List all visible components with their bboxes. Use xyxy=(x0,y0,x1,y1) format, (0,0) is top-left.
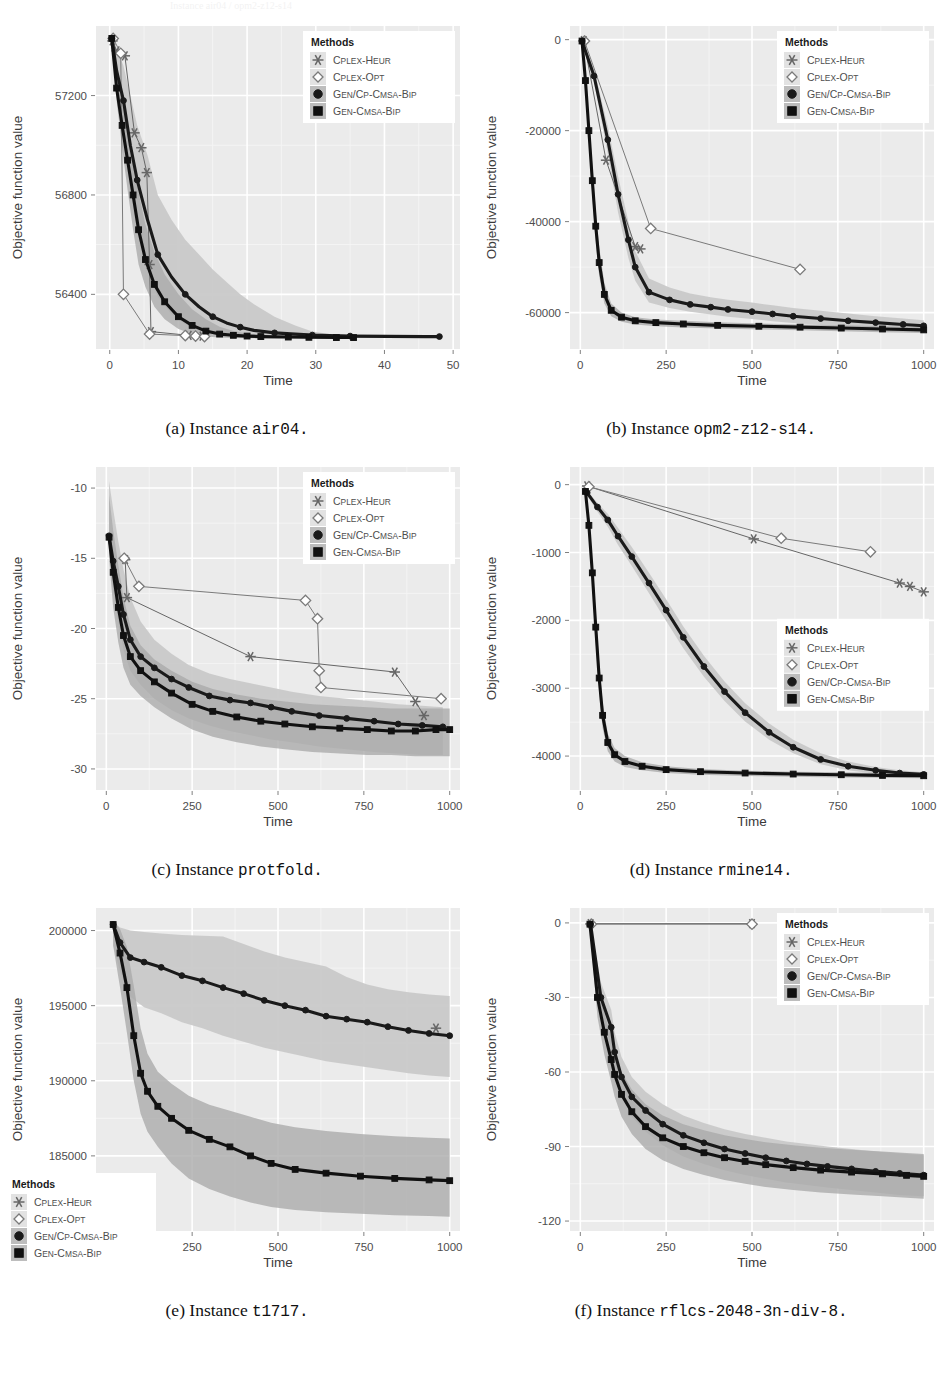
svg-text:Objective function value: Objective function value xyxy=(10,557,25,700)
svg-text:250: 250 xyxy=(657,359,676,371)
figure-row-3: 2505007501000185000190000195000200000Tim… xyxy=(0,882,948,1323)
svg-text:GEN-CMSA-BIP: GEN-CMSA-BIP xyxy=(333,105,401,117)
svg-text:-20000: -20000 xyxy=(525,125,561,137)
subfigure-a: 01020304050564005680057200TimeObjective … xyxy=(0,0,474,441)
svg-text:Methods: Methods xyxy=(12,1178,55,1190)
svg-text:Methods: Methods xyxy=(785,918,828,930)
svg-text:GEN-CMSA-BIP: GEN-CMSA-BIP xyxy=(807,105,875,117)
svg-text:CPLEX-HEUR: CPLEX-HEUR xyxy=(807,54,865,66)
caption-d: (d) Instance rmine14. xyxy=(474,856,948,882)
svg-text:0: 0 xyxy=(577,1241,583,1253)
svg-text:-10: -10 xyxy=(70,482,87,494)
svg-text:-25: -25 xyxy=(70,693,87,705)
caption-d-prefix: (d) Instance xyxy=(630,859,713,879)
svg-text:CPLEX-OPT: CPLEX-OPT xyxy=(333,71,384,83)
svg-text:Time: Time xyxy=(737,373,767,388)
svg-text:GEN-CMSA-BIP: GEN-CMSA-BIP xyxy=(333,546,401,558)
plot-d: 025050075010000-1000-2000-3000-4000TimeO… xyxy=(474,441,948,856)
svg-text:20: 20 xyxy=(241,359,254,371)
svg-text:GEN/CP-CMSA-BIP: GEN/CP-CMSA-BIP xyxy=(333,88,417,100)
svg-text:500: 500 xyxy=(742,359,761,371)
svg-text:30: 30 xyxy=(309,359,322,371)
svg-text:250: 250 xyxy=(657,1241,676,1253)
svg-text:Methods: Methods xyxy=(311,36,354,48)
svg-text:Objective function value: Objective function value xyxy=(484,998,499,1141)
caption-c: (c) Instance protfold. xyxy=(0,856,474,882)
svg-text:Time: Time xyxy=(263,1255,293,1270)
caption-e-prefix: (e) Instance xyxy=(166,1300,248,1320)
figure-row-1: 01020304050564005680057200TimeObjective … xyxy=(0,0,948,441)
caption-e-instance: t1717. xyxy=(252,1303,308,1321)
svg-text:-4000: -4000 xyxy=(532,750,561,762)
caption-f-instance: rflcs-2048-3n-div-8. xyxy=(659,1303,847,1321)
caption-a-prefix: (a) Instance xyxy=(166,418,248,438)
svg-text:250: 250 xyxy=(657,800,676,812)
svg-text:Methods: Methods xyxy=(785,36,828,48)
caption-f: (f) Instance rflcs-2048-3n-div-8. xyxy=(474,1297,948,1323)
svg-text:-15: -15 xyxy=(70,552,87,564)
svg-text:0: 0 xyxy=(103,800,109,812)
svg-text:1000: 1000 xyxy=(911,1241,937,1253)
svg-text:GEN-CMSA-BIP: GEN-CMSA-BIP xyxy=(807,693,875,705)
svg-text:CPLEX-HEUR: CPLEX-HEUR xyxy=(333,495,391,507)
svg-text:0: 0 xyxy=(555,479,561,491)
svg-text:190000: 190000 xyxy=(49,1075,87,1087)
svg-text:0: 0 xyxy=(577,800,583,812)
figure-multi-panel-convergence-plots: Instance air04 / opm2-z12-s14 0102030405… xyxy=(0,0,948,1389)
svg-text:185000: 185000 xyxy=(49,1150,87,1162)
svg-text:-40000: -40000 xyxy=(525,216,561,228)
svg-text:0: 0 xyxy=(107,359,113,371)
svg-text:CPLEX-HEUR: CPLEX-HEUR xyxy=(333,54,391,66)
plot-f: 025050075010000-30-60-90-120TimeObjectiv… xyxy=(474,882,948,1297)
svg-text:CPLEX-OPT: CPLEX-OPT xyxy=(333,512,384,524)
svg-text:Objective function value: Objective function value xyxy=(10,116,25,259)
caption-a-instance: air04. xyxy=(252,421,308,439)
svg-text:-60: -60 xyxy=(544,1066,561,1078)
plot-a: 01020304050564005680057200TimeObjective … xyxy=(0,0,474,415)
svg-text:GEN-CMSA-BIP: GEN-CMSA-BIP xyxy=(807,987,875,999)
caption-c-instance: protfold. xyxy=(238,862,323,880)
svg-text:Methods: Methods xyxy=(311,477,354,489)
subfigure-e: 2505007501000185000190000195000200000Tim… xyxy=(0,882,474,1323)
plot-b: 025050075010000-20000-40000-60000TimeObj… xyxy=(474,0,948,415)
svg-text:GEN/CP-CMSA-BIP: GEN/CP-CMSA-BIP xyxy=(34,1230,118,1242)
svg-text:750: 750 xyxy=(828,800,847,812)
svg-text:57200: 57200 xyxy=(55,90,87,102)
svg-text:Time: Time xyxy=(737,1255,767,1270)
caption-f-prefix: (f) Instance xyxy=(575,1300,655,1320)
svg-text:-120: -120 xyxy=(538,1215,561,1227)
svg-text:CPLEX-OPT: CPLEX-OPT xyxy=(807,659,858,671)
svg-text:-3000: -3000 xyxy=(532,682,561,694)
svg-text:1000: 1000 xyxy=(437,800,463,812)
svg-text:50: 50 xyxy=(447,359,460,371)
svg-text:250: 250 xyxy=(183,1241,202,1253)
svg-text:-20: -20 xyxy=(70,623,87,635)
svg-text:500: 500 xyxy=(268,1241,287,1253)
subfigure-d: 025050075010000-1000-2000-3000-4000TimeO… xyxy=(474,441,948,882)
svg-text:CPLEX-OPT: CPLEX-OPT xyxy=(34,1213,85,1225)
svg-text:750: 750 xyxy=(828,359,847,371)
caption-b: (b) Instance opm2-z12-s14. xyxy=(474,415,948,441)
svg-text:Time: Time xyxy=(263,814,293,829)
plot-e: 2505007501000185000190000195000200000Tim… xyxy=(0,882,474,1297)
subfigure-c: 02505007501000-10-15-20-25-30TimeObjecti… xyxy=(0,441,474,882)
svg-text:-60000: -60000 xyxy=(525,307,561,319)
svg-text:Objective function value: Objective function value xyxy=(10,998,25,1141)
svg-text:Objective function value: Objective function value xyxy=(484,557,499,700)
caption-e: (e) Instance t1717. xyxy=(0,1297,474,1323)
svg-text:Time: Time xyxy=(737,814,767,829)
svg-text:750: 750 xyxy=(354,800,373,812)
svg-text:500: 500 xyxy=(742,1241,761,1253)
caption-b-instance: opm2-z12-s14. xyxy=(694,421,816,439)
svg-text:56800: 56800 xyxy=(55,189,87,201)
svg-text:CPLEX-OPT: CPLEX-OPT xyxy=(807,953,858,965)
svg-text:750: 750 xyxy=(354,1241,373,1253)
caption-a: (a) Instance air04. xyxy=(0,415,474,441)
svg-text:-30: -30 xyxy=(70,763,87,775)
svg-text:GEN/CP-CMSA-BIP: GEN/CP-CMSA-BIP xyxy=(807,970,891,982)
svg-text:750: 750 xyxy=(828,1241,847,1253)
svg-text:Objective function value: Objective function value xyxy=(484,116,499,259)
svg-text:1000: 1000 xyxy=(911,359,937,371)
svg-text:0: 0 xyxy=(555,34,561,46)
svg-text:CPLEX-HEUR: CPLEX-HEUR xyxy=(807,642,865,654)
